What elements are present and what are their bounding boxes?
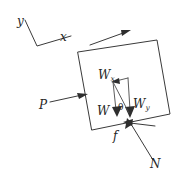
- weight-y-shaft: [128, 78, 130, 110]
- motion-arrow-shaft: [90, 32, 126, 45]
- force-label-f: f: [113, 130, 117, 142]
- axis-label-x: x: [60, 31, 67, 43]
- angle-label-theta: θ: [118, 103, 123, 112]
- motion-arrow-head: [121, 30, 131, 36]
- force-label-W: W: [97, 105, 109, 117]
- block-outline-group: [78, 40, 170, 130]
- force-label-Wy: Wy: [133, 98, 150, 110]
- force-label-P: P: [39, 99, 47, 111]
- force-label-N: N: [150, 158, 161, 170]
- diagram-canvas: [0, 0, 185, 179]
- force-P-shaft: [50, 95, 82, 102]
- weight-components-group: [111, 78, 135, 118]
- axis-label-y: y: [17, 15, 24, 27]
- force-P-group: [50, 93, 88, 102]
- force-N-shaft: [131, 124, 153, 160]
- force-f-shaft: [130, 123, 155, 126]
- block-outline: [78, 40, 170, 130]
- motion-arrow-group: [90, 30, 131, 45]
- force-label-Wx: Wx: [98, 69, 115, 81]
- free-body-diagram: y x P Wx Wy W θ f N: [0, 0, 185, 179]
